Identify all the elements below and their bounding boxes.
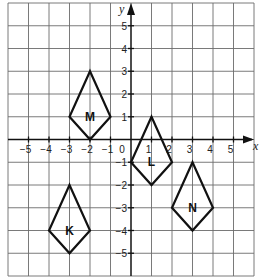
x-tick-label: −2 [81, 144, 93, 155]
y-tick-label: 2 [121, 89, 127, 100]
y-tick-label: 5 [121, 21, 127, 32]
y-tick-label: −1 [116, 157, 128, 168]
x-axis-title: x [252, 139, 259, 153]
y-tick-label: −4 [116, 226, 128, 237]
x-tick-label: 3 [187, 144, 193, 155]
shape-label: M [85, 110, 95, 124]
y-tick-label: −5 [116, 248, 128, 259]
x-tick-label: 1 [146, 144, 152, 155]
axes [8, 3, 254, 276]
shape-label: K [65, 224, 74, 238]
y-tick-label: −3 [116, 203, 128, 214]
x-tick-label: 4 [207, 144, 213, 155]
x-tick-label: −3 [61, 144, 73, 155]
y-axis-title: y [118, 2, 125, 16]
y-tick-label: 3 [121, 66, 127, 77]
y-tick-label: 1 [121, 112, 127, 123]
x-tick-label: −5 [20, 144, 32, 155]
coordinate-grid: −5−4−3−2−101234554321−1−2−3−4−5 MLNK x y [0, 0, 262, 277]
x-tick-label: 0 [119, 144, 125, 155]
y-tick-label: 4 [121, 44, 127, 55]
shape-label: L [148, 155, 155, 169]
y-axis-arrow-icon [127, 3, 135, 15]
x-tick-label: −1 [102, 144, 114, 155]
y-tick-label: −2 [116, 180, 128, 191]
x-tick-label: 5 [228, 144, 234, 155]
shape-label: N [188, 201, 197, 215]
x-tick-label: −4 [40, 144, 52, 155]
